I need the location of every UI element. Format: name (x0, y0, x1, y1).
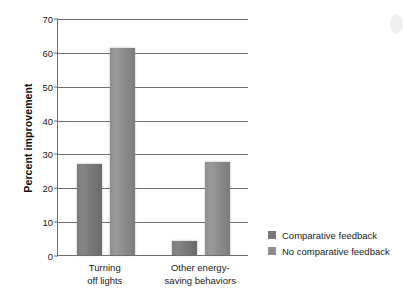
y-axis-tick-label: 60 (42, 47, 53, 58)
y-axis-tickmark (54, 256, 58, 257)
y-axis-tickmark (54, 188, 58, 189)
legend-item: No comparative feedback (268, 244, 390, 258)
x-axis-group-label: Other energy-saving behaviors (130, 262, 270, 287)
chart-legend: Comparative feedbackNo comparative feedb… (268, 228, 390, 260)
bar (172, 241, 197, 255)
y-axis-tick-label: 20 (42, 183, 53, 194)
gridline (58, 87, 248, 88)
gridline (58, 121, 248, 122)
x-axis-label-line: Other energy- (130, 262, 270, 275)
gridline (58, 19, 248, 20)
plot-area: 010203040506070 (57, 19, 248, 256)
legend-item: Comparative feedback (268, 228, 390, 242)
x-axis-label-line: saving behaviors (130, 275, 270, 288)
bar (77, 164, 102, 255)
legend-swatch-icon (268, 247, 276, 255)
y-axis-tick-label: 0 (48, 251, 53, 262)
y-axis-title: Percent improvement (22, 48, 34, 228)
legend-swatch-icon (268, 231, 276, 239)
y-axis-tick-label: 40 (42, 115, 53, 126)
y-axis-tickmark (54, 120, 58, 121)
y-axis-tickmark (54, 19, 58, 20)
y-axis-tickmark (54, 52, 58, 53)
y-axis-tickmark (54, 222, 58, 223)
y-axis-tick-label: 10 (42, 217, 53, 228)
bar (110, 48, 135, 255)
legend-label: Comparative feedback (282, 230, 377, 241)
y-axis-tick-label: 70 (42, 14, 53, 25)
y-axis-tick-label: 30 (42, 149, 53, 160)
y-axis-tick-label: 50 (42, 81, 53, 92)
y-axis-tickmark (54, 154, 58, 155)
legend-label: No comparative feedback (282, 246, 390, 257)
bar (205, 162, 230, 255)
y-axis-tickmark (54, 86, 58, 87)
scan-artifact (390, 14, 403, 34)
gridline (58, 53, 248, 54)
gridline (58, 154, 248, 155)
